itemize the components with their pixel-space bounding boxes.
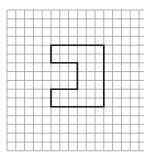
grid-diagram: [0, 0, 144, 157]
grid-lines: [7, 10, 144, 151]
